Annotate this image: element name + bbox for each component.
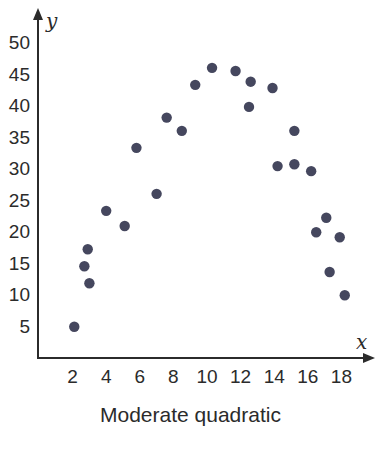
y-tick-labels: 5101520253035404550 [9,32,30,337]
data-point [131,143,141,153]
data-point [340,290,350,300]
x-tick-label: 2 [67,366,78,387]
chart-caption: Moderate quadratic [0,403,381,427]
data-point [267,83,277,93]
x-tick-label: 14 [264,366,286,387]
y-axis-arrow-icon [33,8,43,20]
y-tick-label: 35 [9,127,30,148]
data-point [244,102,254,112]
data-point [69,322,79,332]
data-point [230,66,240,76]
y-tick-label: 40 [9,95,30,116]
data-point [84,278,94,288]
data-point [151,189,161,199]
y-tick-label: 5 [19,316,30,337]
data-point [324,267,334,277]
y-tick-label: 25 [9,190,30,211]
data-point [311,227,321,237]
data-point [321,213,331,223]
data-point [272,161,282,171]
y-tick-label: 50 [9,32,30,53]
data-point [306,166,316,176]
x-tick-label: 4 [101,366,112,387]
data-point [161,112,171,122]
x-axis-arrow-icon [363,353,375,363]
data-point [101,206,111,216]
data-point [245,76,255,86]
scatter-plot: y x 5101520253035404550 24681012141618 [0,0,381,453]
data-points [69,63,350,332]
data-point [207,63,217,73]
y-axis-label: y [45,9,58,33]
data-point [119,221,129,231]
x-tick-label: 10 [196,366,217,387]
x-tick-label: 12 [230,366,251,387]
x-axis-label: x [356,330,367,354]
y-tick-label: 10 [9,284,30,305]
x-tick-label: 16 [297,366,318,387]
data-point [190,80,200,90]
x-tick-label: 18 [331,366,352,387]
data-point [83,244,93,254]
data-point [79,261,89,271]
y-tick-label: 45 [9,64,30,85]
axes: y x [33,8,375,363]
y-tick-label: 15 [9,253,30,274]
y-tick-label: 20 [9,221,30,242]
data-point [289,126,299,136]
x-tick-label: 6 [135,366,146,387]
data-point [289,159,299,169]
data-point [335,232,345,242]
x-tick-label: 8 [168,366,179,387]
data-point [177,126,187,136]
x-tick-labels: 24681012141618 [67,366,352,387]
y-tick-label: 30 [9,158,30,179]
